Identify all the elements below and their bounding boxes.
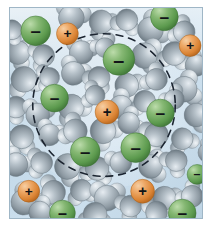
minus-sign-icon: – [177,203,187,218]
minus-sign-icon: – [58,204,67,218]
minus-sign-icon: – [50,88,60,108]
ion-anion-shell-bottom-r: – [121,133,151,163]
minus-sign-icon: – [194,167,201,181]
ion-cation-bottom-right: + [131,179,155,203]
plus-sign-icon: + [186,38,194,53]
ion-cation-bottom-left: + [18,180,40,202]
ion-cation-center: + [95,100,119,124]
plus-sign-icon: + [25,184,33,199]
ion-anion-shell-top: – [103,44,135,76]
minus-sign-icon: – [131,137,141,158]
plus-sign-icon: + [103,104,112,120]
plus-sign-icon: + [63,26,71,41]
minus-sign-icon: – [80,141,90,162]
ion-anion-shell-right: – [147,99,175,127]
ion-cation-top-right: + [179,35,201,57]
ion-anion-shell-bottom-l: – [70,137,100,167]
figure-root: –+–+––+–––++––– Aqueous electrolyte solu… [0,0,212,227]
minus-sign-icon: – [160,8,170,27]
minus-sign-icon: – [113,49,124,71]
minus-sign-icon: – [31,20,41,41]
ion-anion-shell-left: – [41,84,69,112]
minus-sign-icon: – [156,103,166,123]
plus-sign-icon: + [138,183,147,199]
simulation-box: –+–+––+–––++––– [9,7,203,219]
molecular-scene: –+–+––+–––++––– [10,8,202,218]
ion-cation-top: + [57,23,79,45]
ion-anion-top-left: – [21,16,51,46]
